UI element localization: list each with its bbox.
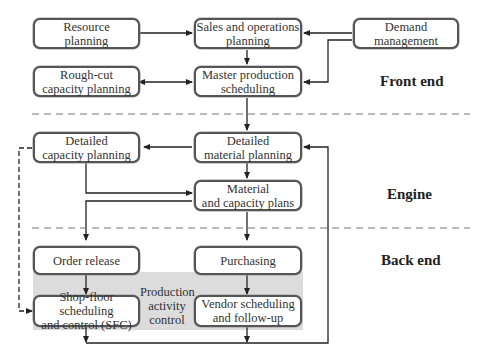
box-label: Purchasing [220, 254, 276, 268]
box-label: Resource planning [63, 20, 110, 48]
section-label-back-end: Back end [381, 252, 441, 269]
box-label: Detailed material planning [204, 134, 292, 162]
box-resource-planning: Resource planning [33, 18, 140, 49]
box-label: Demand management [374, 20, 438, 48]
box-rough-cut-capacity-planning: Rough-cut capacity planning [33, 66, 140, 97]
box-purchasing: Purchasing [194, 246, 302, 275]
mpc-system-diagram: Resource planning Sales and operations p… [0, 0, 481, 360]
box-label: Material and capacity plans [202, 182, 294, 210]
box-label: Order release [53, 254, 120, 268]
box-vendor-scheduling: Vendor scheduling and follow-up [194, 295, 302, 327]
box-shop-floor-scheduling: Shop-floor scheduling and control (SFC) [33, 295, 140, 327]
box-label: Master production scheduling [202, 68, 294, 96]
box-detailed-capacity-planning: Detailed capacity planning [33, 132, 140, 163]
box-label: Shop-floor scheduling and control (SFC) [35, 290, 138, 332]
production-activity-control-label: Production activity control [140, 285, 194, 327]
box-label: Sales and operations planning [197, 20, 300, 48]
box-label: Rough-cut capacity planning [42, 68, 131, 96]
box-label: Detailed capacity planning [42, 134, 131, 162]
box-detailed-material-planning: Detailed material planning [194, 132, 302, 163]
pac-label-text: Production activity control [140, 285, 195, 327]
box-demand-management: Demand management [353, 18, 459, 49]
section-label-front-end: Front end [380, 73, 443, 90]
box-label: Vendor scheduling and follow-up [201, 297, 294, 325]
box-order-release: Order release [33, 246, 140, 275]
section-label-engine: Engine [387, 186, 432, 203]
box-master-production-scheduling: Master production scheduling [194, 66, 302, 97]
box-sales-operations-planning: Sales and operations planning [194, 18, 302, 49]
box-material-capacity-plans: Material and capacity plans [194, 180, 302, 211]
